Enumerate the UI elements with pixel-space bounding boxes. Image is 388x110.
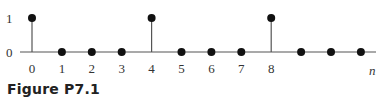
- x-tick-label: 0: [29, 61, 36, 76]
- x-tick-labels: 012345678: [29, 61, 275, 76]
- stems: [28, 14, 365, 56]
- x-tick-label: 5: [178, 61, 185, 76]
- stem-point: [88, 48, 96, 56]
- x-tick-label: 7: [238, 61, 245, 76]
- stem-point: [58, 48, 66, 56]
- stem-point: [357, 48, 365, 56]
- stem-point: [28, 14, 36, 22]
- stem-point: [207, 48, 215, 56]
- stem-point: [267, 14, 275, 22]
- stem-point: [297, 48, 305, 56]
- x-tick-label: 2: [89, 61, 96, 76]
- x-tick-label: 1: [59, 61, 66, 76]
- y-tick-1: 1: [6, 11, 13, 26]
- x-tick-label: 8: [268, 61, 275, 76]
- x-tick-label: 3: [118, 61, 125, 76]
- stem-point: [327, 48, 335, 56]
- stem-point: [148, 14, 156, 22]
- stem-point: [178, 48, 186, 56]
- x-tick-label: 6: [208, 61, 215, 76]
- figure-caption: Figure P7.1: [7, 81, 100, 97]
- stem-point: [118, 48, 126, 56]
- y-tick-0: 0: [6, 45, 13, 60]
- stem-point: [237, 48, 245, 56]
- axis-label-n: n: [369, 63, 376, 78]
- x-tick-label: 4: [148, 61, 155, 76]
